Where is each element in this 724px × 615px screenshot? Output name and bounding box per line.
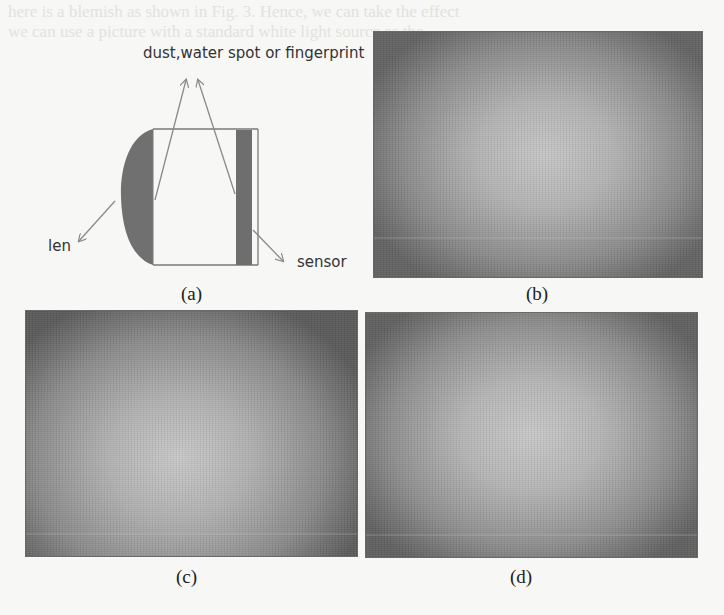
caption-b: (b) bbox=[526, 283, 548, 305]
dust-label: dust,water spot or fingerprint bbox=[143, 44, 364, 62]
panel-b-photo bbox=[373, 31, 703, 278]
len-label: len bbox=[48, 237, 71, 255]
sensor-shape bbox=[236, 130, 252, 265]
caption-d: (d) bbox=[510, 566, 532, 588]
caption-a: (a) bbox=[181, 283, 202, 305]
caption-c: (c) bbox=[176, 566, 197, 588]
panel-c-photo bbox=[25, 310, 358, 557]
lens-shape bbox=[121, 129, 153, 265]
panel-d-photo bbox=[365, 312, 698, 558]
sensor-label: sensor bbox=[297, 253, 347, 271]
